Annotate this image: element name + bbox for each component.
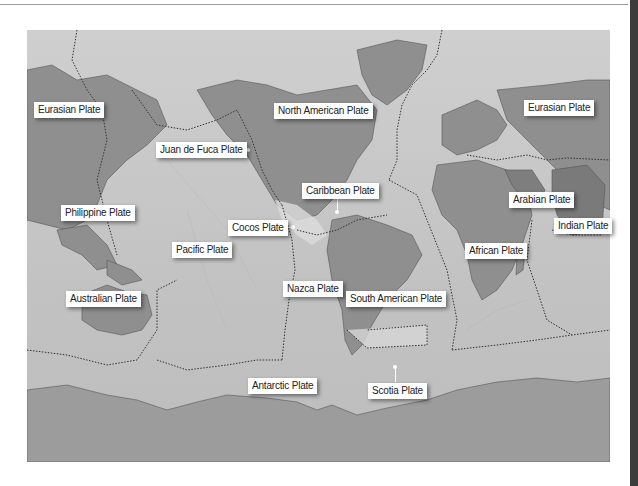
label-pacific-plate: Pacific Plate [172, 242, 232, 258]
label-eurasian-plate-west: Eurasian Plate [34, 102, 104, 118]
label-north-american-plate: North American Plate [274, 103, 373, 119]
cocos-marker [291, 225, 295, 229]
scotia-marker [393, 365, 397, 369]
label-antarctic-plate: Antarctic Plate [248, 378, 317, 394]
top-rule [0, 4, 628, 5]
label-cocos-plate: Cocos Plate [228, 220, 288, 236]
label-caribbean-plate: Caribbean Plate [302, 183, 379, 199]
label-australian-plate: Australian Plate [66, 291, 141, 307]
page-edge-strip [630, 0, 638, 486]
label-philippine-plate: Philippine Plate [61, 205, 135, 221]
scotia-leader [395, 368, 396, 382]
label-juan-de-fuca-plate: Juan de Fuca Plate [156, 142, 247, 158]
label-scotia-plate: Scotia Plate [368, 383, 427, 399]
label-nazca-plate: Nazca Plate [283, 281, 343, 297]
label-indian-plate: Indian Plate [554, 218, 612, 234]
label-south-american-plate: South American Plate [346, 291, 446, 307]
label-eurasian-plate-east: Eurasian Plate [524, 100, 594, 116]
label-african-plate: African Plate [465, 243, 527, 259]
caribbean-marker [335, 210, 339, 214]
juan-de-fuca-marker [246, 148, 250, 152]
label-arabian-plate: Arabian Plate [509, 192, 574, 208]
